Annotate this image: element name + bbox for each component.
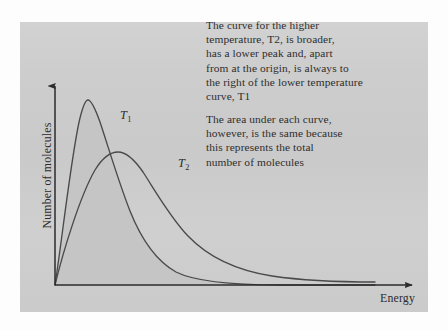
maxwell-boltzmann-figure: The curve for the higher temperature, T2… [0,0,448,330]
curve-label-t2-base: T [178,156,185,170]
x-axis-label: Energy [380,291,415,306]
curve-label-t2: T2 [178,156,189,171]
curve-label-t1-subscript: 1 [127,115,131,124]
curve-label-t1-base: T [120,108,127,122]
annotation-paragraph-2: The area under each curve, however, is t… [206,112,418,169]
y-axis-label: Number of molecules [40,101,55,251]
curve-label-t2-subscript: 2 [185,163,189,172]
curve-label-t1: T1 [120,108,131,123]
annotation-paragraph-1: The curve for the higher temperature, T2… [206,18,418,103]
